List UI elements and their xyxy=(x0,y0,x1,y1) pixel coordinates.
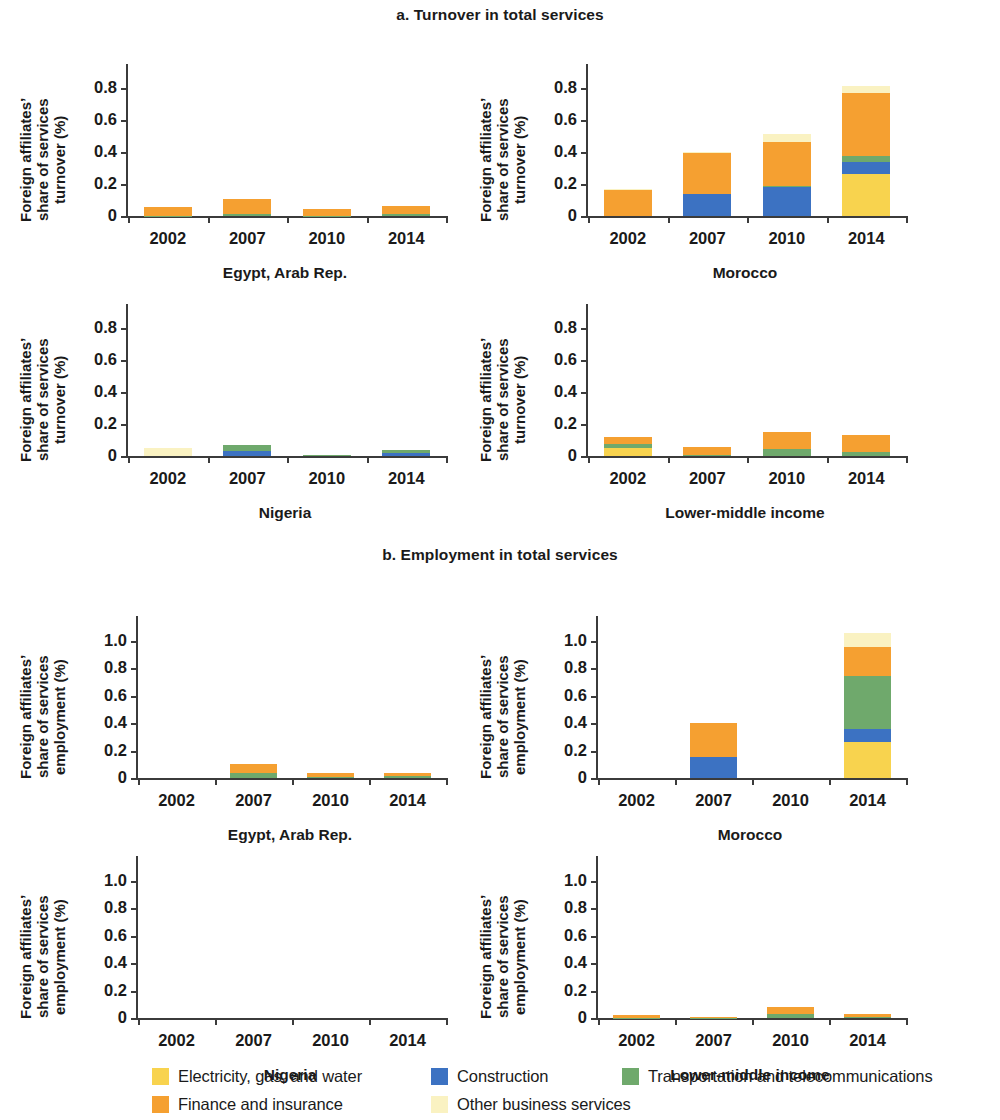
y-axis-label: Foreign affiliates’ share of services em… xyxy=(478,856,528,1058)
y-tick-label: 0.4 xyxy=(554,142,577,161)
x-tick-label: 2007 xyxy=(689,229,726,248)
x-tick-label: 2014 xyxy=(848,469,885,488)
x-tick-label: 2007 xyxy=(229,469,266,488)
y-tick-label: 0.8 xyxy=(564,898,587,917)
x-tick xyxy=(292,1018,294,1025)
x-tick-label: 2002 xyxy=(149,229,186,248)
x-tick xyxy=(588,216,590,223)
x-tick xyxy=(446,1018,448,1025)
panel-a-title: a. Turnover in total services xyxy=(0,6,1000,24)
y-tick xyxy=(121,360,128,362)
bar-2007 xyxy=(223,445,271,456)
y-tick xyxy=(581,184,588,186)
bar-2010 xyxy=(303,209,351,216)
y-tick xyxy=(121,328,128,330)
bar-2010 xyxy=(307,773,353,778)
bar-segment xyxy=(683,455,731,456)
y-tick xyxy=(591,936,598,938)
y-tick-label: 0.8 xyxy=(94,318,117,337)
legend-label-finance: Finance and insurance xyxy=(178,1095,343,1114)
y-tick-label: 0.2 xyxy=(564,981,587,1000)
bar-segment xyxy=(382,453,430,456)
bar-2014 xyxy=(842,435,890,456)
x-tick xyxy=(215,1018,217,1025)
x-tick-label: 2007 xyxy=(695,1031,732,1050)
y-tick xyxy=(131,881,138,883)
legend-item-construction: Construction xyxy=(431,1067,622,1086)
x-tick-label: 2002 xyxy=(609,229,646,248)
y-tick xyxy=(121,392,128,394)
bar-segment xyxy=(842,174,890,216)
x-tick xyxy=(367,456,369,463)
y-tick xyxy=(591,963,598,965)
bar-2002 xyxy=(144,207,192,216)
legend-item-electricity: Electricity, gas, and water xyxy=(152,1067,431,1086)
bar-2014 xyxy=(382,450,430,456)
y-tick-label: 0.4 xyxy=(94,382,117,401)
x-tick xyxy=(287,456,289,463)
y-tick-label: 0.8 xyxy=(104,658,127,677)
y-tick xyxy=(131,723,138,725)
y-tick xyxy=(581,120,588,122)
bar-segment xyxy=(604,437,652,444)
x-tick xyxy=(208,456,210,463)
bar-segment xyxy=(844,1014,890,1018)
y-tick-label: 0.4 xyxy=(104,953,127,972)
x-tick xyxy=(208,216,210,223)
x-tick xyxy=(292,778,294,785)
bar-segment xyxy=(844,647,890,676)
legend-swatch-transportation xyxy=(622,1068,639,1085)
bar-segment xyxy=(763,432,811,449)
plot-area: 00.20.40.60.82002200720102014 xyxy=(586,304,906,458)
y-tick-label: 0.8 xyxy=(104,898,127,917)
chart-subtitle: Egypt, Arab Rep. xyxy=(223,264,347,282)
legend-swatch-electricity xyxy=(152,1068,169,1085)
y-tick-label: 0.4 xyxy=(564,713,587,732)
x-tick xyxy=(668,216,670,223)
bar-2010 xyxy=(767,1007,813,1018)
bar-segment xyxy=(613,1015,659,1017)
bar-segment xyxy=(604,448,652,456)
plot-area: 00.20.40.60.81.02002200720102014 xyxy=(596,856,906,1020)
bar-segment xyxy=(844,742,890,778)
chart-subtitle: Nigeria xyxy=(259,504,312,522)
x-tick xyxy=(675,1018,677,1025)
y-tick-label: 0.2 xyxy=(554,174,577,193)
plot-area: 00.20.40.60.82002200720102014 xyxy=(586,64,906,218)
bar-segment xyxy=(230,773,276,778)
y-tick-label: 0 xyxy=(578,768,587,787)
y-tick-label: 0.4 xyxy=(564,953,587,972)
bar-segment xyxy=(303,455,351,456)
y-tick-label: 1.0 xyxy=(104,631,127,650)
y-tick-label: 0.2 xyxy=(554,414,577,433)
y-tick-label: 0.4 xyxy=(104,713,127,732)
legend-swatch-other_business xyxy=(431,1096,448,1113)
bar-segment xyxy=(382,450,430,453)
legend-label-transportation: Transportation and telecommunications xyxy=(648,1067,933,1086)
x-tick xyxy=(598,778,600,785)
y-tick xyxy=(591,751,598,753)
x-tick-label: 2014 xyxy=(389,791,426,810)
x-tick-label: 2002 xyxy=(149,469,186,488)
bar-segment xyxy=(763,186,811,187)
bar-segment xyxy=(683,194,731,216)
legend-item-finance: Finance and insurance xyxy=(152,1095,431,1114)
y-tick-label: 0.2 xyxy=(104,741,127,760)
y-tick-label: 0.6 xyxy=(94,350,117,369)
x-tick xyxy=(138,1018,140,1025)
chart-legend: Electricity, gas, and waterConstructionT… xyxy=(152,1062,998,1118)
bar-segment xyxy=(382,206,430,214)
y-tick xyxy=(131,936,138,938)
y-tick xyxy=(121,152,128,154)
y-tick xyxy=(591,668,598,670)
x-tick xyxy=(747,456,749,463)
y-tick-label: 0.8 xyxy=(564,658,587,677)
x-tick xyxy=(752,778,754,785)
x-tick-label: 2014 xyxy=(388,229,425,248)
x-tick xyxy=(446,216,448,223)
legend-swatch-finance xyxy=(152,1096,169,1113)
y-tick-label: 0.6 xyxy=(564,686,587,705)
bar-segment xyxy=(842,435,890,451)
y-tick-label: 0 xyxy=(578,1008,587,1027)
x-tick xyxy=(588,456,590,463)
